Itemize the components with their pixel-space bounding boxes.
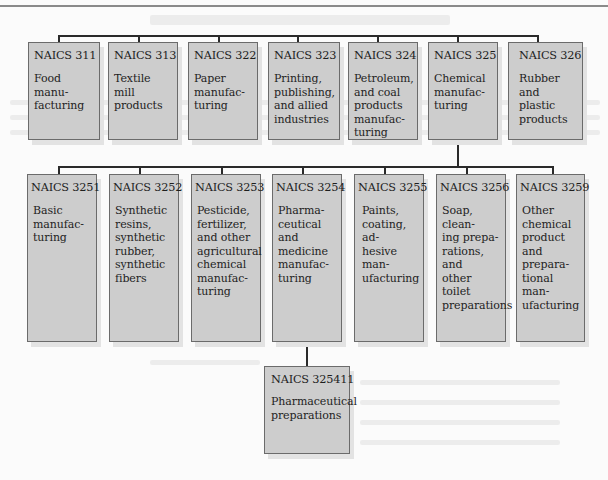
connector: [58, 166, 60, 174]
connector: [297, 35, 299, 42]
node-naics-3254: NAICS 3254 Pharma- ceutical and medicine…: [272, 174, 342, 342]
node-label: Food manu- facturing: [34, 72, 95, 113]
node-code: NAICS 326: [519, 49, 578, 63]
node-naics-3259: NAICS 3259 Other chemical product and pr…: [516, 174, 585, 342]
connector: [58, 35, 60, 42]
node-naics-311: NAICS 311 Food manu- facturing: [28, 42, 100, 140]
node-naics-3256: NAICS 3256 Soap, clean- ing prepa- ratio…: [436, 174, 506, 342]
node-code: NAICS 325: [434, 49, 493, 63]
node-code: NAICS 3252: [113, 181, 174, 195]
node-label: Paper manufac- turing: [194, 72, 253, 113]
node-code: NAICS 3253: [195, 181, 256, 195]
connector: [552, 166, 554, 174]
node-naics-3252: NAICS 3252 Synthetic resins, synthetic r…: [109, 174, 179, 342]
node-naics-322: NAICS 322 Paper manufac- turing: [188, 42, 258, 140]
node-naics-313: NAICS 313 Textile mill products: [108, 42, 178, 140]
connector-mid-horizontal: [58, 166, 553, 168]
node-label: Pesticide, fertilizer, and other agricul…: [197, 204, 256, 299]
connector: [384, 166, 386, 174]
node-label: Chemical manufac- turing: [434, 72, 493, 113]
connector: [302, 166, 304, 174]
node-label: Soap, clean- ing prepa- rations, and oth…: [442, 204, 501, 312]
connector: [139, 166, 141, 174]
node-label: Pharma- ceutical and medicine manufac- t…: [278, 204, 337, 285]
node-label: Pharmaceutical preparations: [271, 395, 345, 422]
node-label: Basic manufac- turing: [33, 204, 92, 245]
node-code: NAICS 3259: [520, 181, 580, 195]
node-code: NAICS 3251: [31, 181, 92, 195]
node-code: NAICS 3255: [358, 181, 419, 195]
node-label: Textile mill products: [114, 72, 173, 113]
node-naics-325: NAICS 325 Chemical manufac- turing: [428, 42, 498, 140]
node-label: Synthetic resins, synthetic rubber, synt…: [115, 204, 174, 285]
node-code: NAICS 325411: [271, 373, 345, 387]
node-code: NAICS 3256: [440, 181, 501, 195]
node-label: Rubber and plastic products: [519, 72, 578, 126]
connector: [138, 35, 140, 42]
connector: [218, 35, 220, 42]
connector: [457, 35, 459, 42]
node-code: NAICS 323: [274, 49, 335, 63]
connector-3254-down: [306, 342, 308, 366]
node-naics-3255: NAICS 3255 Paints, coating, ad- hesive m…: [354, 174, 424, 342]
node-code: NAICS 324: [354, 49, 413, 63]
node-naics-324: NAICS 324 Petroleum, and coal products m…: [348, 42, 418, 140]
node-label: Printing, publishing, and allied industr…: [274, 72, 335, 126]
connector: [221, 166, 223, 174]
connector: [377, 35, 379, 42]
node-code: NAICS 313: [114, 49, 173, 63]
node-naics-325411: NAICS 325411 Pharmaceutical preparations: [264, 366, 350, 454]
connector: [466, 166, 468, 174]
node-label: Paints, coating, ad- hesive man- ufactur…: [362, 204, 419, 285]
node-naics-3251: NAICS 3251 Basic manufac- turing: [27, 174, 97, 342]
connector-325-down: [457, 140, 459, 167]
node-code: NAICS 322: [194, 49, 253, 63]
node-naics-3253: NAICS 3253 Pesticide, fertilizer, and ot…: [191, 174, 261, 342]
node-naics-326: NAICS 326 Rubber and plastic products: [508, 42, 583, 140]
connector: [537, 35, 539, 42]
node-label: Other chemical product and prepara- tion…: [522, 204, 580, 312]
node-naics-323: NAICS 323 Printing, publishing, and alli…: [268, 42, 340, 140]
header-rule: [0, 5, 608, 7]
node-label: Petroleum, and coal products manufac- tu…: [354, 72, 413, 140]
node-code: NAICS 311: [34, 49, 95, 63]
node-code: NAICS 3254: [276, 181, 337, 195]
